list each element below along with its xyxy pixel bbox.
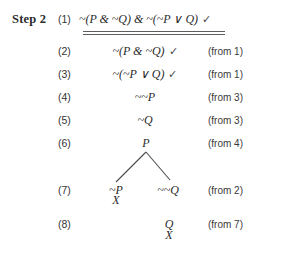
formula-line-7-right-text: ~~Q (157, 183, 179, 197)
formula-line-4-text: ~~P (135, 90, 155, 104)
line-number-2: (2) (58, 45, 82, 57)
double-rule-divider (83, 31, 225, 35)
formula-line-3-text: ~(~P ∨ Q) (113, 67, 165, 81)
justification-line-7: (from 2) (208, 185, 243, 196)
check-mark-line-2: ✓ (165, 45, 178, 57)
justification-line-4: (from 3) (208, 92, 243, 103)
formula-line-1: ~(P & ~Q) & ~(~P ∨ Q)✓ (79, 12, 211, 27)
justification-line-6: (from 4) (208, 138, 243, 149)
closure-mark-line-8: X (165, 228, 172, 243)
check-mark-line-1: ✓ (198, 13, 211, 25)
formula-line-4: ~~P (135, 90, 155, 105)
justification-line-2: (from 1) (208, 46, 243, 57)
line-number-5: (5) (58, 114, 82, 126)
formula-line-6-text: P (142, 136, 149, 150)
formula-line-2: ~(P & ~Q)✓ (112, 44, 177, 59)
double-rule-top-bar (83, 31, 225, 32)
formula-line-2-text: ~(P & ~Q) (112, 44, 164, 58)
double-rule-bottom-bar (83, 34, 225, 35)
proof-tableau: Step 2 (1) ~(P & ~Q) & ~(~P ∨ Q)✓ (2) ~(… (0, 0, 283, 256)
justification-line-8: (from 7) (208, 219, 243, 230)
line-number-4: (4) (58, 91, 82, 103)
justification-line-3: (from 1) (208, 69, 243, 80)
line-number-8: (8) (58, 218, 82, 230)
line-number-6: (6) (58, 137, 82, 149)
formula-line-5: ~Q (137, 113, 152, 128)
formula-line-5-text: ~Q (137, 113, 152, 127)
line-number-3: (3) (58, 68, 82, 80)
formula-line-6: P (142, 136, 149, 151)
formula-line-1-text: ~(P & ~Q) & ~(~P ∨ Q) (79, 12, 198, 26)
formula-line-3: ~(~P ∨ Q)✓ (113, 67, 178, 82)
closure-mark-line-7-left: X (112, 193, 119, 208)
justification-line-5: (from 3) (208, 115, 243, 126)
step-label: Step 2 (12, 12, 46, 27)
check-mark-line-3: ✓ (164, 68, 177, 80)
formula-line-7-right-branch: ~~Q (157, 183, 179, 198)
branch-line-left (116, 152, 146, 182)
branch-line-right (146, 152, 170, 180)
line-number-7: (7) (58, 184, 82, 196)
